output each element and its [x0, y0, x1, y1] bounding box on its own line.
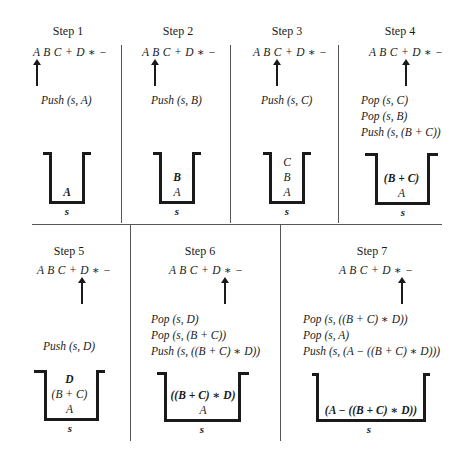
step-title: Step 1 — [18, 24, 118, 39]
operation: Push (s, C) — [261, 92, 312, 108]
stack-container: D (B + C) A — [34, 370, 105, 421]
operation: Push (s, (A − ((B + C) ∗ D))) — [303, 343, 440, 359]
postfix-expression: A B C + D ∗ − — [369, 45, 443, 59]
operation: Pop (s, C) — [361, 92, 441, 108]
stack-item: A — [157, 403, 249, 418]
stack-label: s — [167, 205, 187, 217]
operation: Push (s, D) — [43, 338, 95, 354]
stack-item: A — [365, 186, 438, 201]
stack-container: A — [43, 152, 91, 204]
stack-container: C B A — [263, 152, 311, 204]
stack-label: s — [60, 422, 80, 434]
operations: Pop (s, ((B + C) ∗ D)) Pop (s, A) Push (… — [303, 311, 440, 359]
operation: Pop (s, ((B + C) ∗ D)) — [303, 311, 440, 327]
divider-step3-step4 — [338, 45, 339, 223]
stack-item: ((B + C) ∗ D) — [157, 388, 249, 403]
operations: Pop (s, D) Pop (s, (B + C)) Push (s, ((B… — [151, 311, 260, 359]
pointer-arrow-icon — [276, 64, 278, 86]
divider-step2-step3 — [230, 45, 231, 223]
postfix-expression: A B C + D ∗ − — [37, 263, 111, 277]
step-title: Step 3 — [237, 24, 337, 39]
step-title: Step 4 — [350, 24, 450, 39]
stack-item: A — [34, 402, 105, 417]
operation: Push (s, (B + C)) — [361, 124, 441, 140]
stack-container: (B + C) A — [365, 153, 438, 205]
stack-item: D — [34, 372, 105, 387]
stack-label: s — [393, 206, 413, 218]
stack-container: ((B + C) ∗ D) A — [157, 372, 249, 422]
divider-step1-step2 — [121, 45, 122, 223]
operation: Push (s, A) — [41, 92, 92, 108]
divider-step6-step7 — [280, 225, 281, 441]
pointer-arrow-icon — [405, 64, 407, 86]
operations: Push (s, B) — [151, 92, 202, 108]
pointer-arrow-icon — [401, 282, 403, 304]
pointer-arrow-icon — [224, 282, 226, 304]
operation: Pop (s, D) — [151, 311, 260, 327]
stack-label: s — [359, 423, 379, 435]
postfix-expression: A B C + D ∗ − — [253, 45, 327, 59]
operations: Push (s, A) — [41, 92, 92, 108]
stack-item: A — [263, 185, 311, 200]
operations: Push (s, D) — [43, 338, 95, 354]
pointer-arrow-icon — [154, 64, 156, 86]
step-title: Step 2 — [128, 24, 228, 39]
stack-item: B — [153, 170, 201, 185]
stack-label: s — [277, 205, 297, 217]
pointer-arrow-icon — [36, 64, 38, 86]
operation: Push (s, ((B + C) ∗ D)) — [151, 343, 260, 359]
operations: Push (s, C) — [261, 92, 312, 108]
stack-item: A — [43, 185, 91, 200]
operations: Pop (s, C) Pop (s, B) Push (s, (B + C)) — [361, 92, 441, 140]
stack-item: (A − ((B + C) ∗ D)) — [312, 403, 430, 418]
stack-item: B — [263, 170, 311, 185]
step-title: Step 5 — [19, 244, 119, 259]
stack-label: s — [192, 423, 212, 435]
operation: Push (s, B) — [151, 92, 202, 108]
operation: Pop (s, B) — [361, 108, 441, 124]
pointer-arrow-icon — [81, 282, 83, 304]
divider-row — [32, 224, 442, 225]
operation: Pop (s, (B + C)) — [151, 327, 260, 343]
stack-label: s — [57, 205, 77, 217]
stack-item: (B + C) — [34, 387, 105, 402]
operation: Pop (s, A) — [303, 327, 440, 343]
postfix-expression: A B C + D ∗ − — [33, 45, 107, 59]
postfix-expression: A B C + D ∗ − — [339, 263, 413, 277]
step-title: Step 7 — [322, 244, 422, 259]
stack-item: A — [153, 185, 201, 200]
stack-item: C — [263, 155, 311, 170]
divider-step5-step6 — [130, 225, 131, 441]
step-title: Step 6 — [150, 244, 250, 259]
stack-item: (B + C) — [365, 171, 438, 186]
postfix-expression: A B C + D ∗ − — [142, 45, 216, 59]
postfix-expression: A B C + D ∗ − — [169, 263, 243, 277]
stack-container: (A − ((B + C) ∗ D)) — [312, 373, 430, 422]
stack-container: B A — [153, 152, 201, 204]
